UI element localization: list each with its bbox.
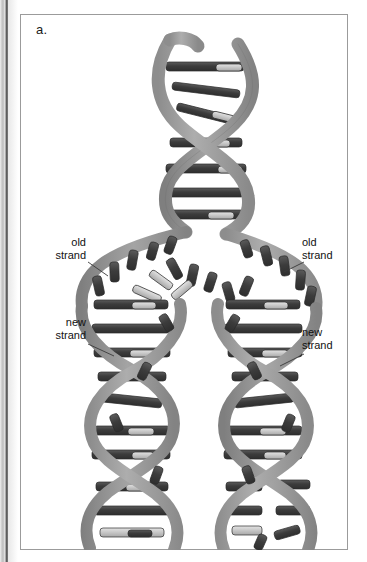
right-daughter-base-pairs (224, 300, 310, 550)
label-new-strand-right: new strand (302, 326, 364, 352)
label-old-strand-right: old strand (302, 236, 364, 262)
page-gutter-strip (0, 0, 8, 562)
parent-backbone-top-curl (170, 38, 198, 46)
replication-fork (82, 232, 317, 308)
label-new-strand-left: new strand (18, 316, 86, 342)
parent-double-helix (158, 38, 252, 234)
left-daughter-helix (82, 300, 181, 550)
label-old-strand-left: old strand (18, 236, 86, 262)
dna-replication-illustration (20, 14, 348, 550)
page-gutter-shadow (8, 0, 18, 562)
free-nucleotides (132, 257, 255, 304)
